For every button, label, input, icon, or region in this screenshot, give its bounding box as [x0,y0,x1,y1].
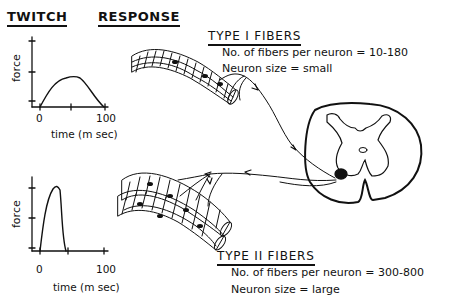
type1-fibers-per-neuron: No. of fibers per neuron = 10-180 [222,46,408,60]
type2-muscle-bundle [118,173,234,252]
bottom-plot-xtick-100: 100 [96,263,116,275]
bottom-plot-ylabel: force [10,200,23,228]
motor-neuron-body [335,169,347,179]
axon-type1 [220,74,335,178]
bottom-plot-xtick-0: 0 [36,263,43,275]
type1-neuron-size: Neuron size = small [222,62,332,76]
type2-neuron-size: Neuron size = large [231,283,340,297]
arrow-icons [205,84,296,184]
type2-heading: TYPE II FIBERS [217,250,315,266]
gray-matter [327,114,391,176]
top-plot-xtick-100: 100 [96,112,116,124]
central-canal [359,148,367,153]
type1-heading: TYPE I FIBERS [208,30,301,46]
spinal-cord-outline [305,103,421,203]
bottom-twitch-curve [40,186,66,251]
top-plot-ylabel: force [10,54,23,82]
top-plot-xtick-0: 0 [36,112,43,124]
bottom-plot-xlabel: time (m sec) [53,281,120,293]
top-twitch-curve [40,77,104,108]
top-plot-xlabel: time (m sec) [51,128,118,140]
type2-fibers-per-neuron: No. of fibers per neuron = 300-800 [231,266,424,280]
